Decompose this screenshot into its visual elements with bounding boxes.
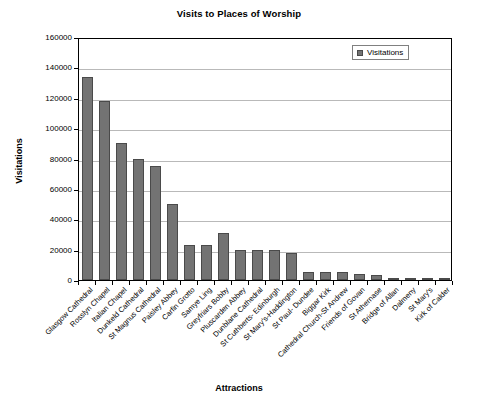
plot-area [78, 38, 452, 281]
bar [388, 278, 399, 280]
x-axis-tick-mark [282, 281, 283, 285]
legend-label: Visitations [367, 48, 403, 57]
y-axis-tick-label: 100000 [24, 125, 72, 133]
y-axis-tick-label: 60000 [24, 186, 72, 194]
bar [235, 250, 246, 280]
x-axis-tick-mark [333, 281, 334, 285]
bar [201, 245, 212, 280]
bar [320, 272, 331, 280]
bar [439, 278, 450, 280]
x-axis-tick-labels: Glasgow CathedralRosslyn ChapelItalian C… [78, 286, 478, 381]
x-axis-tick-mark [197, 281, 198, 285]
bar [184, 245, 195, 280]
bar [150, 166, 161, 280]
y-axis-tick-label: 120000 [24, 95, 72, 103]
y-axis-tick-mark [74, 129, 78, 130]
x-axis-tick-mark [129, 281, 130, 285]
bar [354, 274, 365, 280]
x-axis-tick-mark [452, 281, 453, 285]
bar [286, 253, 297, 280]
y-axis-tick-mark [74, 220, 78, 221]
x-axis-tick-mark [299, 281, 300, 285]
y-axis-tick-mark [74, 281, 78, 282]
chart-legend: Visitations [352, 45, 409, 60]
y-axis-tick-mark [74, 190, 78, 191]
x-axis-tick-mark [384, 281, 385, 285]
x-axis-tick-mark [248, 281, 249, 285]
x-axis-tick-mark [401, 281, 402, 285]
x-axis-tick-mark [418, 281, 419, 285]
bar [371, 275, 382, 280]
bar [99, 101, 110, 280]
bar [167, 204, 178, 280]
y-axis-tick-label: 0 [24, 277, 72, 285]
x-axis-tick-mark [180, 281, 181, 285]
y-axis-tick-label: 160000 [24, 34, 72, 42]
bars-layer [79, 39, 451, 280]
y-axis-tick-labels: 1600001400001200001000008000060000400002… [22, 0, 72, 407]
y-axis-tick-label: 20000 [24, 247, 72, 255]
x-axis-tick-mark [231, 281, 232, 285]
x-axis-tick-mark [146, 281, 147, 285]
bar [269, 250, 280, 280]
x-axis-tick-mark [112, 281, 113, 285]
bar [82, 77, 93, 281]
x-axis-tick-mark [163, 281, 164, 285]
bar [422, 278, 433, 280]
x-axis-tick-mark [214, 281, 215, 285]
legend-swatch-icon [357, 50, 363, 56]
bar [337, 272, 348, 280]
x-axis-tick-mark [95, 281, 96, 285]
bar [252, 250, 263, 280]
bar-chart: Visits to Places of Worship Visitations … [0, 0, 478, 407]
y-axis-tick-mark [74, 251, 78, 252]
bar [303, 272, 314, 280]
y-axis-tick-mark [74, 38, 78, 39]
y-axis-tick-label: 40000 [24, 216, 72, 224]
bar [133, 159, 144, 281]
y-axis-tick-label: 140000 [24, 64, 72, 72]
x-axis-tick-mark [78, 281, 79, 285]
y-axis-tick-mark [74, 68, 78, 69]
bar [218, 233, 229, 280]
x-axis-tick-mark [367, 281, 368, 285]
x-axis-tick-mark [265, 281, 266, 285]
bar [405, 278, 416, 280]
x-axis-tick-mark [350, 281, 351, 285]
x-axis-tick-mark [435, 281, 436, 285]
x-axis-tick-mark [316, 281, 317, 285]
y-axis-tick-mark [74, 160, 78, 161]
y-axis-tick-label: 80000 [24, 156, 72, 164]
y-axis-tick-mark [74, 99, 78, 100]
x-axis-title: Attractions [0, 383, 478, 393]
bar [116, 143, 127, 280]
